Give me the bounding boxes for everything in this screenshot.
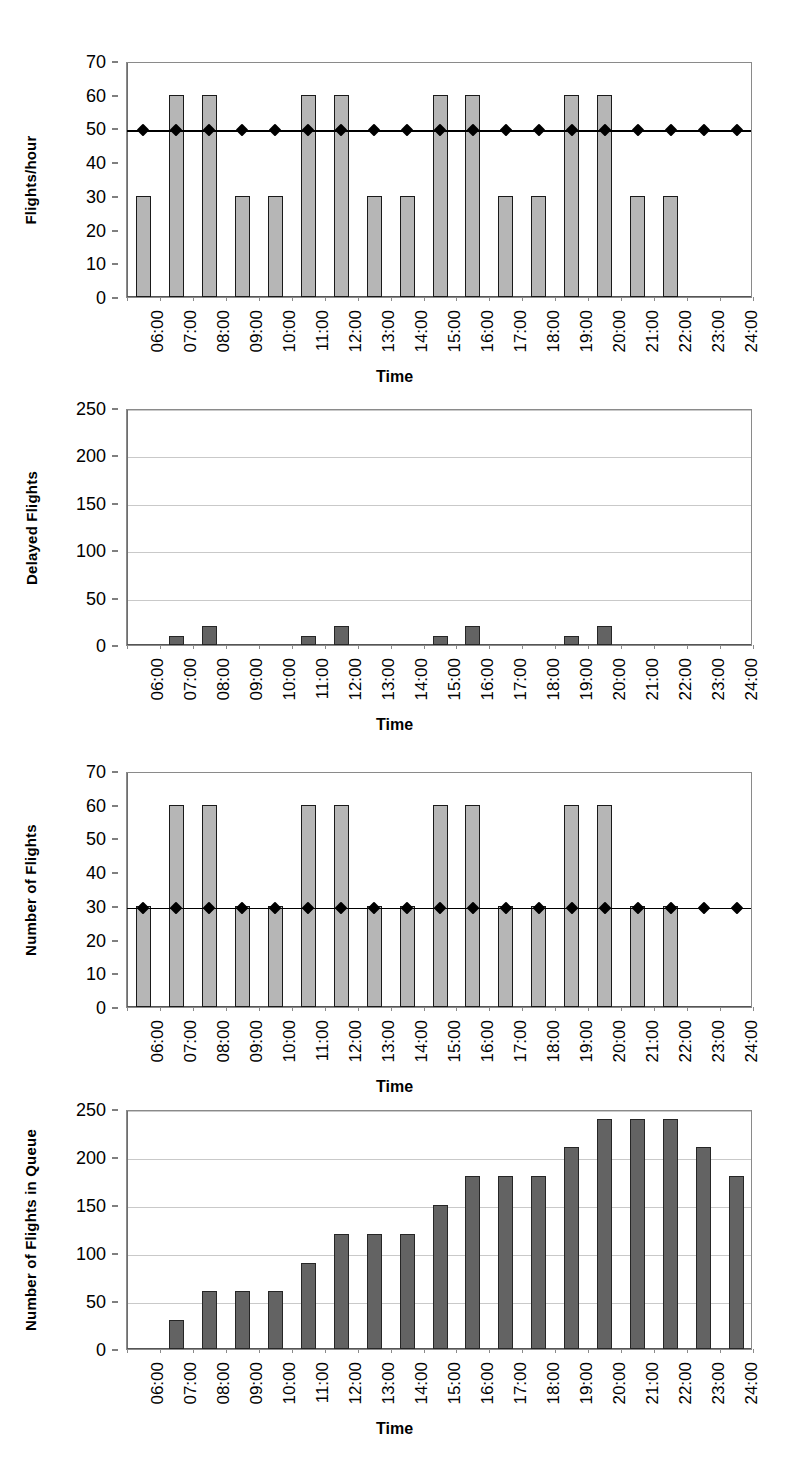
y-axis-line — [127, 1111, 128, 1349]
x-tick-mark — [522, 1349, 523, 1353]
gridline — [127, 1111, 751, 1112]
x-tick-mark — [391, 1007, 392, 1011]
y-axis-title: Number of Flights — [22, 772, 40, 1008]
x-tick-mark — [292, 1349, 293, 1353]
y-tick-label: 50 — [86, 830, 106, 848]
y-tick-mark — [112, 839, 118, 840]
bar — [630, 1119, 645, 1349]
x-tick-label: 24:00 — [743, 1362, 760, 1405]
x-tick-label: 15:00 — [446, 1362, 463, 1405]
bar — [663, 196, 678, 297]
gridline — [127, 600, 751, 601]
x-tick-label: 19:00 — [578, 658, 595, 701]
x-tick-mark — [358, 645, 359, 649]
x-tick-label: 08:00 — [215, 1020, 232, 1063]
diamond-marker — [697, 124, 710, 137]
x-tick-label: 16:00 — [479, 310, 496, 353]
x-tick-label: 06:00 — [149, 1020, 166, 1063]
x-tick-mark — [325, 297, 326, 301]
y-tick-mark — [112, 1008, 118, 1009]
bar — [433, 636, 448, 645]
bar — [400, 196, 415, 297]
y-tick-label: 0 — [96, 289, 106, 307]
x-tick-label: 22:00 — [677, 1020, 694, 1063]
bar — [367, 196, 382, 297]
x-tick-mark — [325, 1349, 326, 1353]
x-tick-label: 09:00 — [248, 1362, 265, 1405]
y-tick-mark — [112, 1206, 118, 1207]
bar — [169, 636, 184, 645]
x-tick-mark — [193, 1349, 194, 1353]
x-tick-mark — [456, 297, 457, 301]
x-tick-label: 16:00 — [479, 1020, 496, 1063]
y-tick-mark — [112, 551, 118, 552]
y-axis-title: Delayed Flights — [22, 409, 40, 646]
x-tick-label: 13:00 — [380, 310, 397, 353]
y-tick-label: 200 — [76, 1149, 106, 1167]
y-tick-label: 150 — [76, 1197, 106, 1215]
bar — [367, 1234, 382, 1349]
x-tick-mark — [588, 1349, 589, 1353]
y-tick-mark — [112, 503, 118, 504]
bar — [498, 196, 513, 297]
x-tick-mark — [555, 297, 556, 301]
bar — [663, 1119, 678, 1349]
x-tick-mark — [160, 297, 161, 301]
gridline — [127, 457, 751, 458]
x-tick-mark — [391, 645, 392, 649]
y-tick-label: 30 — [86, 188, 106, 206]
y-tick-mark — [112, 62, 118, 63]
x-tick-label: 20:00 — [611, 658, 628, 701]
diamond-marker — [401, 124, 414, 137]
y-tick-label: 10 — [86, 255, 106, 273]
x-tick-mark — [588, 297, 589, 301]
x-tick-label: 11:00 — [314, 1362, 331, 1403]
y-axis-line — [127, 63, 128, 297]
y-tick-mark — [112, 129, 118, 130]
x-tick-label: 22:00 — [677, 1362, 694, 1405]
y-tick-label: 10 — [86, 965, 106, 983]
bar — [597, 626, 612, 645]
x-tick-label: 10:00 — [281, 310, 298, 353]
y-tick-label: 0 — [96, 999, 106, 1017]
diamond-marker — [730, 901, 743, 914]
x-tick-label: 23:00 — [710, 310, 727, 353]
gridline — [127, 505, 751, 506]
x-tick-mark — [358, 297, 359, 301]
bar — [531, 196, 546, 297]
x-tick-mark — [654, 645, 655, 649]
bar — [465, 626, 480, 645]
bar — [169, 1320, 184, 1349]
bar — [334, 626, 349, 645]
x-tick-mark — [522, 645, 523, 649]
y-axis-ticks: 010203040506070 — [66, 62, 118, 298]
x-axis-title: Time — [0, 368, 789, 386]
x-tick-label: 13:00 — [380, 658, 397, 701]
bar — [465, 1176, 480, 1349]
y-tick-mark — [112, 1302, 118, 1303]
x-tick-label: 14:00 — [413, 658, 430, 701]
bar — [136, 906, 151, 1007]
x-tick-mark — [424, 1349, 425, 1353]
x-tick-mark — [654, 297, 655, 301]
x-tick-label: 23:00 — [710, 1362, 727, 1405]
gridline — [127, 1159, 751, 1160]
y-tick-label: 40 — [86, 864, 106, 882]
y-axis-title: Number of Flights in Queue — [22, 1110, 40, 1350]
x-tick-label: 18:00 — [545, 1362, 562, 1405]
bar — [268, 1291, 283, 1349]
diamond-marker — [532, 124, 545, 137]
x-tick-mark — [424, 645, 425, 649]
x-tick-label: 08:00 — [215, 658, 232, 701]
diamond-marker — [697, 901, 710, 914]
x-tick-mark — [226, 645, 227, 649]
x-tick-label: 06:00 — [149, 1362, 166, 1405]
y-tick-label: 30 — [86, 898, 106, 916]
diamond-marker — [730, 124, 743, 137]
x-tick-label: 09:00 — [248, 1020, 265, 1063]
x-tick-mark — [259, 645, 260, 649]
x-tick-label: 13:00 — [380, 1020, 397, 1063]
x-tick-mark — [391, 1349, 392, 1353]
x-tick-mark — [259, 297, 260, 301]
x-tick-mark — [522, 1007, 523, 1011]
